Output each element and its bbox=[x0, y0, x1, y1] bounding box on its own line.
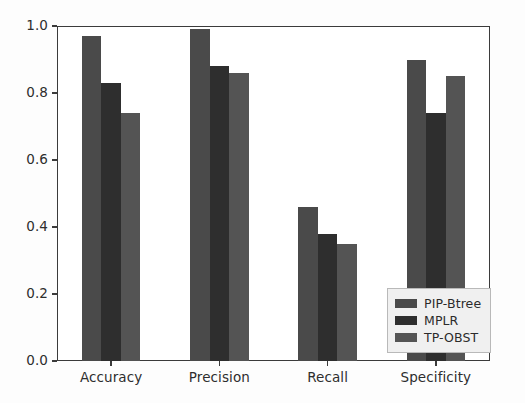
y-tick-label: 0.4 bbox=[26, 218, 48, 234]
legend-label: PIP-Btree bbox=[424, 296, 481, 311]
bar bbox=[190, 29, 210, 361]
x-tick-label: Accuracy bbox=[80, 369, 142, 385]
x-tick-label: Specificity bbox=[401, 369, 472, 385]
legend: PIP-BtreeMPLRTP-OBST bbox=[387, 288, 491, 353]
bar bbox=[337, 244, 357, 361]
bar bbox=[121, 113, 141, 361]
bar bbox=[298, 207, 318, 361]
bar bbox=[210, 66, 230, 361]
x-tick-mark bbox=[219, 361, 220, 366]
x-tick-mark bbox=[327, 361, 328, 366]
legend-item[interactable]: PIP-Btree bbox=[395, 295, 483, 312]
legend-item[interactable]: TP-OBST bbox=[395, 329, 483, 346]
x-tick-label: Recall bbox=[307, 369, 348, 385]
legend-swatch-icon bbox=[395, 333, 417, 342]
bar bbox=[82, 36, 102, 361]
x-tick-mark bbox=[435, 361, 436, 366]
y-tick-label: 0.0 bbox=[26, 352, 48, 368]
legend-swatch-icon bbox=[395, 299, 417, 308]
y-tick-label: 1.0 bbox=[26, 17, 48, 33]
y-tick-label: 0.6 bbox=[26, 151, 48, 167]
bar bbox=[229, 73, 249, 361]
bar bbox=[101, 83, 121, 361]
legend-label: MPLR bbox=[424, 313, 458, 328]
legend-label: TP-OBST bbox=[424, 330, 478, 345]
x-tick-mark bbox=[110, 361, 111, 366]
bar bbox=[318, 234, 338, 361]
legend-item[interactable]: MPLR bbox=[395, 312, 483, 329]
y-tick-label: 0.8 bbox=[26, 84, 48, 100]
x-tick-label: Precision bbox=[189, 369, 250, 385]
bar-chart-figure: 0.00.20.40.60.81.0 AccuracyPrecisionReca… bbox=[0, 0, 525, 403]
y-axis: 0.00.20.40.60.81.0 bbox=[0, 26, 57, 361]
y-tick-label: 0.2 bbox=[26, 285, 48, 301]
x-axis: AccuracyPrecisionRecallSpecificity bbox=[57, 361, 490, 403]
legend-swatch-icon bbox=[395, 316, 417, 325]
